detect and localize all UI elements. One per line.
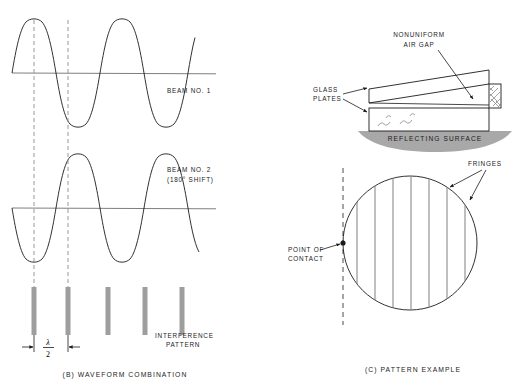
technical-diagram-svg: BEAM NO. 1 BEAM NO. 2 (180° SHIFT) [0,0,525,390]
interference-pattern-bars [32,287,185,335]
fringe-pattern-circle-group: POINT OF CONTACT FRINGES [288,160,502,325]
glass-plates-label-line1: GLASS [313,86,338,93]
beam2-axis-line [12,208,216,209]
panel-c-caption: (C) PATTERN EXAMPLE [365,366,461,374]
figure-root: BEAM NO. 1 BEAM NO. 2 (180° SHIFT) [0,0,525,390]
interference-bar [106,287,111,335]
panel-c-pattern-example: REFLECTING SURFACE [288,31,512,374]
point-of-contact-label-line2: CONTACT [288,255,324,262]
beam1-label: BEAM NO. 1 [167,87,211,94]
interference-pattern-label-line2: PATTERN [166,341,200,348]
fringe-lines [357,170,465,316]
upper-glass-plate [369,70,489,103]
wavelength-denominator-label: 2 [46,350,50,359]
beam2-label-line1: BEAM NO. 2 [167,166,211,173]
air-gap-wedge-line [369,103,489,105]
fringes-leader-upper [450,170,482,187]
fringes-label: FRINGES [468,160,502,167]
beam2-label-line2: (180° SHIFT) [167,176,214,184]
panel-b-waveform-combination: BEAM NO. 1 BEAM NO. 2 (180° SHIFT) [12,19,216,379]
air-gap-label-line1: NONUNIFORM [393,31,445,38]
point-of-contact-marker [340,240,345,245]
glass-plate-setup: REFLECTING SURFACE [313,31,512,152]
glass-plates-leader-upper [343,88,367,94]
pattern-circle-outline [343,176,477,310]
wavelength-numerator-label: λ [45,338,50,347]
interference-bar [32,287,37,335]
beam1-axis-line [12,73,216,74]
air-gap-label-line2: AIR GAP [403,41,434,48]
point-of-contact-label-line1: POINT OF [288,246,324,253]
wavelength-dimension: λ 2 [22,335,80,359]
glass-plates-label-line2: PLATES [313,95,342,102]
reflecting-surface-label: REFLECTING SURFACE [388,135,483,142]
panel-b-caption: (B) WAVEFORM COMBINATION [63,371,188,379]
fringes-leader-lower [470,170,486,200]
interference-bar [143,287,148,335]
glass-plates-leader-lower [343,99,367,112]
interference-bar [180,287,185,335]
interference-pattern-label-line1: INTERFERENCE [155,332,214,339]
interference-bar [66,287,71,335]
lower-glass-plate [369,108,489,131]
